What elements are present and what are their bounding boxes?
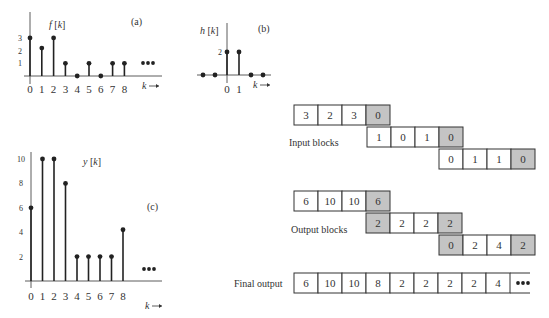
stem-marker	[52, 157, 57, 162]
k-axis-label: k	[253, 79, 258, 90]
block-cell-value: 2	[447, 217, 453, 229]
chart-c-y: 246810012345678y [k](c)k	[17, 152, 162, 311]
x-tick-label: 5	[86, 290, 92, 302]
overlap-add-diagram: 123012345678f [k](a)k201h [k](b)k2468100…	[0, 0, 549, 318]
block-cell-value: 2	[399, 277, 405, 289]
stem-marker	[98, 74, 103, 79]
block-cell-value: 0	[520, 153, 526, 165]
final-output-row: 61010822224	[294, 273, 530, 293]
block-cell-value: 1	[472, 153, 478, 165]
input-block-row: 0110	[439, 149, 535, 169]
block-cell-value: 8	[375, 277, 381, 289]
ellipsis-dot	[147, 267, 151, 271]
stem-marker	[237, 50, 242, 55]
stem-marker	[201, 73, 206, 78]
stem-marker	[40, 157, 45, 162]
chart-b-title: h [k]	[200, 25, 219, 36]
x-tick-label: 1	[39, 83, 45, 95]
block-cell-value: 1	[376, 131, 382, 143]
block-cell-value: 1	[424, 131, 430, 143]
ellipsis-dot	[526, 281, 530, 285]
x-tick-label: 1	[40, 290, 46, 302]
block-cell-value: 6	[303, 277, 309, 289]
x-tick-label: 6	[97, 290, 103, 302]
x-tick-label: 4	[74, 83, 80, 95]
stem-marker	[110, 61, 115, 66]
block-cell-value: 10	[349, 195, 361, 207]
output-block-row: 0242	[439, 235, 535, 255]
panel-label-a: (a)	[131, 16, 142, 28]
block-cell-value: 0	[400, 131, 406, 143]
y-tick-label: 8	[19, 179, 23, 188]
x-tick-label: 2	[51, 83, 57, 95]
y-tick-label: 10	[17, 155, 25, 164]
output-blocks-label: Output blocks	[291, 224, 347, 235]
x-tick-label: 0	[224, 83, 230, 95]
y-tick-label: 2	[18, 47, 22, 56]
block-cell-value: 0	[448, 153, 454, 165]
block-cell-value: 10	[325, 195, 337, 207]
stem-marker	[28, 36, 33, 41]
input-block-row: 1010	[367, 127, 463, 147]
stem-marker	[51, 36, 56, 41]
k-axis-label: k	[142, 80, 147, 91]
stem-marker	[39, 46, 44, 51]
x-tick-label: 2	[51, 290, 57, 302]
block-cell-value: 2	[375, 217, 381, 229]
stem-marker	[87, 61, 92, 66]
chart-a-title: f [k]	[49, 19, 65, 30]
x-tick-label: 5	[86, 83, 92, 95]
chart-b-h: 201h [k](b)k	[197, 23, 271, 95]
stem-marker	[75, 74, 80, 79]
ellipsis-dot	[141, 61, 145, 65]
final-output: 61010822224Final output	[234, 273, 530, 293]
block-cell-value: 4	[496, 239, 502, 251]
block-cell-value: 2	[327, 109, 333, 121]
stem-marker	[29, 205, 34, 210]
ellipsis-dot	[151, 61, 155, 65]
input-block-row: 3230	[294, 105, 390, 125]
stem-marker	[122, 61, 127, 66]
block-cell-value: 2	[423, 277, 429, 289]
stem-marker	[225, 50, 230, 55]
stem-marker	[63, 181, 68, 186]
panel-label-c: (c)	[147, 201, 158, 213]
x-tick-label: 6	[98, 83, 104, 95]
block-cell-value: 2	[447, 277, 453, 289]
x-tick-label: 0	[27, 83, 33, 95]
x-tick-label: 8	[120, 290, 126, 302]
block-cell-value: 1	[496, 153, 502, 165]
stem-marker	[121, 227, 126, 232]
block-cell-value: 2	[472, 239, 478, 251]
block-cell-value: 0	[448, 239, 454, 251]
x-tick-label: 3	[63, 290, 69, 302]
input-blocks-label: Input blocks	[289, 137, 339, 148]
stem-marker	[109, 254, 114, 259]
x-tick-label: 7	[110, 83, 116, 95]
stem-marker	[98, 254, 103, 259]
block-cell-value: 2	[423, 217, 429, 229]
stem-marker	[86, 254, 91, 259]
block-cell-value: 2	[399, 217, 405, 229]
chart-a-f: 123012345678f [k](a)k	[18, 12, 162, 95]
y-tick-label: 2	[19, 253, 23, 262]
x-tick-label: 4	[74, 290, 80, 302]
k-axis-label: k	[145, 300, 150, 311]
ellipsis-dot	[142, 267, 146, 271]
x-tick-label: 0	[28, 290, 34, 302]
block-cell-value: 10	[325, 277, 337, 289]
chart-c-title: y [k]	[82, 156, 101, 167]
output-blocks: 61010622220242Output blocks	[291, 191, 535, 255]
stem-marker	[213, 73, 218, 78]
stem-marker	[249, 73, 254, 78]
y-tick-label: 4	[19, 228, 23, 237]
y-tick-label: 3	[18, 34, 22, 43]
y-tick-label: 1	[18, 59, 22, 68]
ellipsis-dot	[516, 281, 520, 285]
block-cell-value: 2	[471, 277, 477, 289]
block-cell-value: 6	[303, 195, 309, 207]
ellipsis-dot	[146, 61, 150, 65]
y-tick-label: 2	[218, 48, 222, 57]
block-cell-value: 3	[303, 109, 309, 121]
block-cell-value: 10	[349, 277, 361, 289]
